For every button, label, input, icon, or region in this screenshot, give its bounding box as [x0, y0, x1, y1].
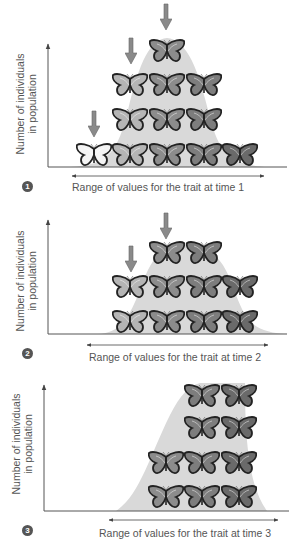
x-axis-label: Range of values for the trait at time 1 — [72, 181, 244, 193]
panel-time-1: Number of individuals in population 1 Ra… — [0, 0, 307, 200]
butterfly-icon — [77, 144, 111, 165]
selection-arrow-icon — [125, 38, 137, 64]
distribution-plot-2 — [0, 195, 307, 375]
y-axis-label: Number of individuals in population — [14, 44, 38, 164]
selection-arrow-icon — [88, 111, 100, 137]
x-axis-label: Range of values for the trait at time 3 — [99, 527, 271, 539]
butterfly-icon — [113, 74, 147, 95]
butterfly-icon — [150, 242, 184, 263]
butterfly-icon — [187, 242, 221, 263]
y-axis-label: Number of individuals in population — [14, 221, 38, 341]
butterfly-icon — [223, 144, 257, 165]
panel-time-2: Number of individuals in population 2 Ra… — [0, 195, 307, 375]
selection-arrow-icon — [160, 4, 172, 30]
butterfly-icon — [113, 276, 147, 297]
step-number-badge: 1 — [22, 181, 33, 192]
butterfly-icon — [187, 74, 221, 95]
y-axis-label: Number of individuals in population — [10, 384, 34, 504]
distribution-plot-3 — [0, 375, 307, 545]
selection-arrow-icon — [160, 213, 172, 239]
x-axis-label: Range of values for the trait at time 2 — [89, 351, 261, 363]
step-number-badge: 2 — [22, 348, 33, 359]
panel-time-3: Number of individuals in population 3 Ra… — [0, 375, 307, 545]
selection-arrow-icon — [125, 246, 137, 272]
distribution-plot-1 — [0, 0, 307, 200]
butterfly-icon — [223, 276, 257, 297]
step-number-badge: 3 — [22, 525, 33, 536]
